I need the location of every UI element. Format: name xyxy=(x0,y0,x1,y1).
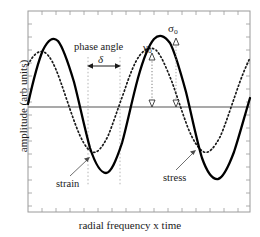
y-axis-label: amplitude (arb units) xyxy=(17,31,29,181)
strain-curve xyxy=(28,48,250,152)
strain-leader xyxy=(70,157,90,176)
stress-curve-label: stress xyxy=(163,172,186,183)
gamma-amplitude-marker xyxy=(149,53,155,107)
delta-symbol-label: δ xyxy=(98,53,103,65)
top-axis-ticks xyxy=(42,11,238,15)
sigma-subscript: o xyxy=(174,27,178,36)
sigma-zero-label: σo xyxy=(168,22,178,36)
bottom-axis-ticks xyxy=(42,208,238,212)
sigma-amplitude-marker xyxy=(173,38,179,107)
gamma-zero-label: γo xyxy=(143,41,152,55)
stress-leader xyxy=(176,150,196,170)
gamma-subscript: o xyxy=(148,46,152,55)
right-axis-ticks xyxy=(246,24,250,206)
figure-container: amplitude (arb units) radial frequency x… xyxy=(0,0,260,237)
x-axis-label: radial frequency x time xyxy=(0,219,260,231)
strain-curve-label: strain xyxy=(56,178,79,189)
stress-strain-plot xyxy=(0,0,260,237)
phase-angle-label: phase angle xyxy=(74,41,123,52)
delta-arrow xyxy=(87,63,121,68)
